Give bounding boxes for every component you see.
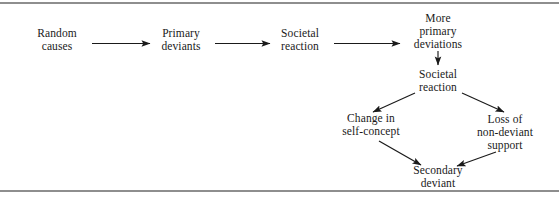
node-line: Societal [281,27,319,40]
flow-diagram-figure: Random causes Primary deviants Societal … [0,0,559,202]
node-line: Change in [342,112,399,125]
node-line: primary [414,25,462,38]
node-more-primary-deviations: More primary deviations [414,12,462,51]
edge-reaction2-to-change [373,93,415,112]
arrow-layer [0,0,559,202]
node-random-causes: Random causes [37,27,77,53]
node-line: Primary [161,27,200,40]
node-line: causes [37,40,77,53]
node-line: deviant [413,177,462,190]
node-line: reaction [419,81,457,94]
node-societal-reaction-1: Societal reaction [281,27,319,53]
edge-loss-to-secondary [457,152,496,166]
node-loss-of-non-deviant-support: Loss of non-deviant support [477,113,533,152]
node-line: self-concept [342,125,399,138]
node-primary-deviants: Primary deviants [161,27,200,53]
edge-reaction2-to-loss [462,93,504,112]
node-societal-reaction-2: Societal reaction [419,68,457,94]
node-line: Loss of [477,113,533,126]
node-line: Secondary [413,164,462,177]
node-line: reaction [281,40,319,53]
node-line: Random [37,27,77,40]
node-line: deviants [161,40,200,53]
node-line: Societal [419,68,457,81]
node-line: support [477,139,533,152]
node-change-in-self-concept: Change in self-concept [342,112,399,138]
node-secondary-deviant: Secondary deviant [413,164,462,190]
edge-change-to-secondary [379,141,421,165]
node-line: More [414,12,462,25]
node-line: deviations [414,38,462,51]
node-line: non-deviant [477,126,533,139]
